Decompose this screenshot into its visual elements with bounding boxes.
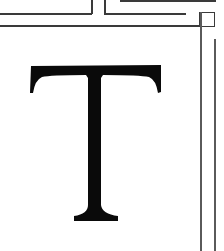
letter-t-glyph: T [0, 0, 224, 251]
t-crossbar [30, 65, 161, 221]
